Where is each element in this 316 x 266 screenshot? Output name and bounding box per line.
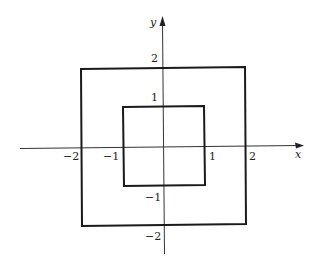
- y-axis-arrow-icon: [160, 16, 166, 26]
- y-tick-label: 2: [151, 52, 158, 65]
- y-tick-label: −1: [145, 191, 161, 204]
- y-axis-label: y: [149, 16, 157, 29]
- x-tick-label: 1: [209, 150, 216, 163]
- x-tick-label: −1: [103, 150, 119, 163]
- x-axis: [20, 146, 298, 149]
- coordinate-diagram: y x −2 −1 1 2 2 1 −1 −2: [0, 0, 316, 266]
- x-tick-label: −2: [63, 150, 79, 163]
- y-axis: [163, 22, 165, 254]
- y-tick-label: −2: [145, 230, 161, 243]
- y-tick-label: 1: [151, 91, 158, 104]
- x-tick-label: 2: [249, 150, 256, 163]
- x-axis-label: x: [295, 148, 302, 161]
